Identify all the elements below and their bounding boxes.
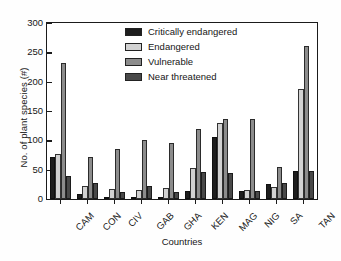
bar <box>66 176 71 199</box>
legend-item: Critically endangered <box>125 27 237 37</box>
y-axis-title: No. of plant species (#) <box>18 33 29 203</box>
y-tick-mark <box>47 199 52 200</box>
bar-group-civ <box>101 23 128 199</box>
bar <box>228 173 233 199</box>
bar-group-sa <box>263 23 290 199</box>
x-tick-mark <box>222 199 223 204</box>
x-tick-label-ken: KEN <box>208 210 230 232</box>
x-tick-label-gab: GAB <box>154 210 176 232</box>
bar <box>282 183 287 199</box>
x-tick-mark <box>60 199 61 204</box>
bar <box>250 119 255 199</box>
bar <box>309 171 314 199</box>
legend-label: Critically endangered <box>148 27 237 37</box>
legend-swatch-icon <box>125 58 142 66</box>
bar-group-con <box>74 23 101 199</box>
bar <box>201 172 206 199</box>
bar <box>147 186 152 199</box>
y-tick-label: 250 <box>27 48 43 58</box>
bar <box>255 191 260 199</box>
y-tick-label: 150 <box>27 106 43 116</box>
chart-figure: No. of plant species (#) 050100150200250… <box>0 0 341 261</box>
y-tick-label: 0 <box>38 194 43 204</box>
plot-inner: 050100150200250300 Critically endangered… <box>47 23 317 199</box>
chart-legend: Critically endangeredEndangeredVulnerabl… <box>125 27 237 82</box>
y-tick-label: 50 <box>32 165 43 175</box>
x-tick-label-civ: CIV <box>126 210 145 229</box>
x-tick-mark <box>195 199 196 204</box>
y-tick-label: 200 <box>27 77 43 87</box>
y-tick-label: 300 <box>27 18 43 28</box>
bar-group-tan <box>290 23 317 199</box>
legend-swatch-icon <box>125 43 142 51</box>
x-tick-mark <box>249 199 250 204</box>
bar <box>169 143 174 199</box>
x-tick-label-con: CON <box>100 210 123 233</box>
y-tick-label: 100 <box>27 136 43 146</box>
x-tick-mark <box>168 199 169 204</box>
bar <box>120 192 125 199</box>
bar-group-nig <box>236 23 263 199</box>
legend-item: Near threatened <box>125 72 237 82</box>
bar <box>174 192 179 199</box>
x-tick-mark <box>303 199 304 204</box>
legend-label: Near threatened <box>148 72 217 82</box>
x-tick-mark <box>87 199 88 204</box>
x-tick-mark <box>141 199 142 204</box>
legend-item: Endangered <box>125 42 237 52</box>
legend-swatch-icon <box>125 28 142 36</box>
x-tick-label-tan: TAN <box>317 210 338 231</box>
x-axis-tick-labels: CAMCONCIVGABGHAKENMAGNIGSATAN <box>46 206 318 236</box>
x-tick-label-mag: MAG <box>236 210 259 233</box>
x-tick-mark <box>276 199 277 204</box>
x-tick-label-nig: NIG <box>262 210 282 230</box>
legend-label: Endangered <box>148 42 200 52</box>
x-tick-mark <box>114 199 115 204</box>
x-axis-title: Countries <box>46 236 318 247</box>
legend-item: Vulnerable <box>125 57 237 67</box>
legend-swatch-icon <box>125 73 142 81</box>
plot-area: 050100150200250300 Critically endangered… <box>46 22 318 200</box>
legend-label: Vulnerable <box>148 57 193 67</box>
x-tick-label-sa: SA <box>288 210 305 227</box>
bar <box>93 183 98 199</box>
x-tick-label-cam: CAM <box>73 210 96 233</box>
bar-group-cam <box>47 23 74 199</box>
x-tick-label-gha: GHA <box>181 210 203 232</box>
